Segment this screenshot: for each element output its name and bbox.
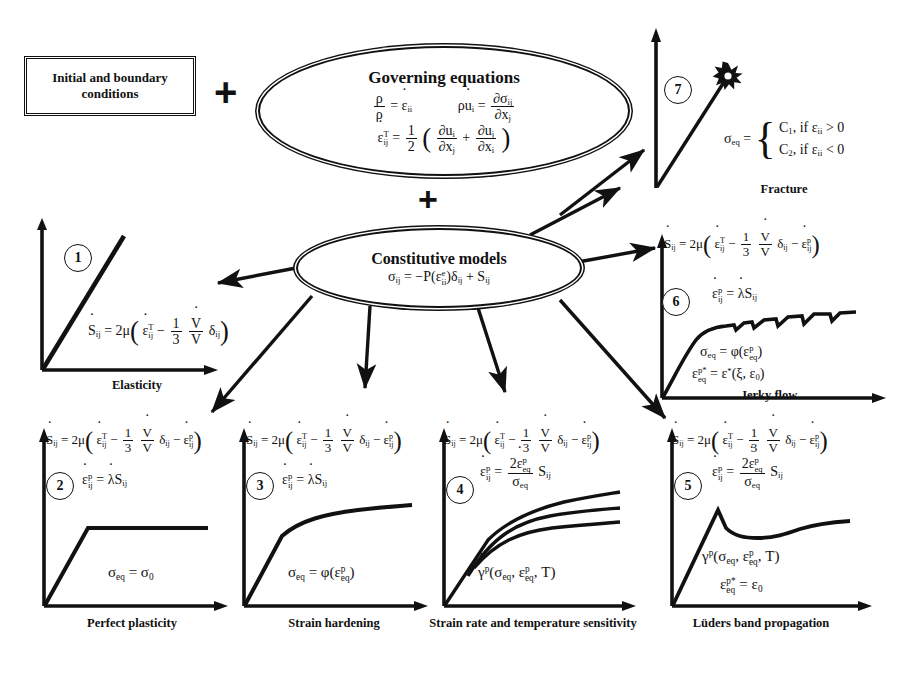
governing-equations-row1: ρρ = εii ρui = ∂σij∂xj — [372, 91, 517, 122]
panel-2-equation-2: εpij = λSij — [82, 472, 127, 489]
arrow-con-to-4 — [478, 308, 505, 392]
panel-3-axes-and-curve — [222, 424, 438, 670]
panel-5-equation-4: εp*eq = ε0 — [720, 576, 763, 595]
panel-strain-hardening: 3 Sij = 2μ( εTij − 13 VV δij − εpij) εpi… — [222, 424, 438, 670]
panel-7-equation: σeq = { C1, if εii > 0 C2, if εii < 0 — [724, 117, 844, 160]
panel-6-equation-1: Sij = 2μ( εTij − 13 VV δij − εpij) — [664, 230, 820, 259]
panel-1-equation: Sij = 2μ( εTij − 13 VV δij) — [88, 316, 229, 347]
initial-boundary-conditions-box: Initial and boundary conditions — [24, 56, 196, 116]
panel-6-caption: Jerky flow — [704, 388, 834, 402]
panel-5-equation-3: γp(σeq, εpeq, T) — [702, 548, 779, 567]
panel-strain-rate-temperature: 4 Sij = 2μ( εTij − 13 VV δij − εpij) εpi… — [422, 424, 652, 684]
plus-sign-2: + — [418, 182, 438, 216]
panel-perfect-plasticity: 2 Sij = 2μ( εTij − 13 VV δij − εpij) εpi… — [22, 424, 238, 670]
rate-curve-low — [474, 522, 620, 568]
panel-2-number: 2 — [46, 472, 74, 500]
panel-6-equation-2: εpij = λSij — [712, 286, 757, 303]
panel-3-equation-2: εpij = λSij — [282, 472, 327, 489]
burst-icon — [713, 62, 743, 90]
panel-3-number: 3 — [246, 472, 274, 500]
governing-equations-title: Governing equations — [368, 68, 520, 88]
panel-3-caption: Strain hardening — [244, 616, 424, 630]
ibc-label: Initial and boundary conditions — [33, 70, 187, 103]
panel-fracture: 7 σeq = { C1, if εii > 0 C2, if εii < 0 … — [640, 26, 890, 206]
panel-6-equation-3: σeq = φ(εpeq) — [700, 344, 762, 361]
panel-7-number: 7 — [664, 76, 692, 104]
diagram-canvas: Initial and boundary conditions + Govern… — [0, 0, 900, 691]
panel-4-equation-2: εpij = 2εpeqσeq Sij — [480, 456, 551, 489]
arrow-gov-to-fracture — [560, 150, 644, 215]
panel-6-number: 6 — [662, 288, 690, 316]
panel-luders-band: 5 Sij = 2μ( εTij − 13 VV δij − εpij) εpi… — [650, 424, 890, 684]
panel-3-equation-3: σeq = φ(εpeq) — [288, 564, 355, 583]
panel-1-number: 1 — [64, 244, 92, 272]
panel-5-number: 5 — [674, 472, 702, 500]
governing-equations-row2: εTij = 12 ( ∂ui∂xj + ∂uj∂xi ) — [378, 123, 511, 154]
panel-jerky-flow: 6 Sij = 2μ( εTij − 13 VV δij − εpij) εpi… — [640, 228, 896, 418]
panel-elasticity: 1 Sij = 2μ( εTij − 13 VV δij) Elasticity — [28, 218, 228, 398]
panel-2-caption: Perfect plasticity — [42, 616, 222, 630]
panel-2-equation-1: Sij = 2μ( εTij − 13 VV δij − εpij) — [46, 426, 202, 455]
panel-4-number: 4 — [446, 476, 474, 504]
panel-4-caption: Strain rate and temperature sensitivity — [418, 616, 648, 630]
panel-4-equation-3: γp(σeq, εpeq, T) — [478, 564, 555, 583]
panel-3-equation-1: Sij = 2μ( εTij − 13 VV δij − εpij) — [246, 426, 402, 455]
panel-2-equation-3: σeq = σ0 — [108, 564, 154, 581]
governing-equations-ellipse: Governing equations ρρ = εii ρui = ∂σij∂… — [258, 46, 630, 176]
constitutive-models-equation: σij = −P(εeii)δij + Sij — [388, 269, 490, 286]
constitutive-models-ellipse: Constitutive models σij = −P(εeii)δij + … — [296, 228, 582, 308]
panel-7-caption: Fracture — [714, 182, 854, 196]
panel-2-axes-and-curve — [22, 424, 238, 670]
strain-hardening-curve — [245, 505, 412, 605]
arrow-con-to-1 — [218, 268, 296, 283]
panel-5-equation-2: εpij = 2εpeqσeq Sij — [712, 456, 783, 489]
panel-6-equation-4: εp*eq = ε*(ξ, ε0) — [692, 366, 765, 383]
arrow-con-to-3 — [365, 306, 370, 388]
arrow-con-to-7-branch — [530, 188, 620, 235]
plus-sign-1: + — [214, 72, 237, 112]
panel-1-caption: Elasticity — [62, 378, 212, 392]
panel-5-caption: Lüders band propagation — [676, 616, 846, 630]
